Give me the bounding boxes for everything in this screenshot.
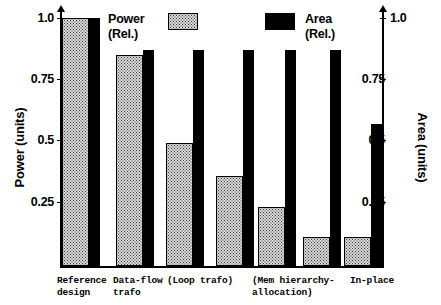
bar-power-4: [216, 176, 243, 266]
legend-label-power: Power (Rel.): [108, 12, 145, 42]
bar-power-3: [166, 143, 193, 266]
bar-area-1: [89, 18, 100, 266]
bar-area-6: [330, 50, 341, 266]
y-axis-left-arrow: [57, 5, 65, 12]
x-axis-category-label-4: (Mem hierarchy- allocation): [252, 275, 352, 299]
bar-power-2: [116, 55, 143, 266]
y-axis-left-tick-label-1: 1.0: [14, 11, 54, 25]
y-axis-right-tick-label-2: 0.75: [345, 72, 385, 86]
bar-power-7: [344, 237, 371, 266]
y-axis-left-tick-label-2: 0.75: [14, 72, 54, 86]
bar-area-4: [243, 50, 254, 266]
bar-area-5: [285, 50, 296, 266]
bar-chart: 1.0 0.75 0.5 0.25 1.0 0.75 0.5 0.25 Powe…: [0, 0, 441, 305]
y-axis-right-arrow: [379, 5, 387, 12]
x-axis-line: [60, 266, 384, 268]
legend-label-area: Area (Rel.): [305, 12, 335, 42]
y-axis-right-tick-label-1: 1.0: [390, 11, 430, 25]
bar-power-5: [258, 207, 285, 266]
x-axis-category-label-5: In-place: [350, 275, 420, 287]
y-axis-right-title: Area (units): [415, 88, 430, 208]
x-axis-category-label-3: (Loop trafo): [167, 275, 247, 287]
legend-swatch-area: [265, 13, 295, 30]
legend-swatch-power: [168, 13, 198, 30]
y-axis-right-tick-1: [380, 18, 386, 19]
bar-area-3: [193, 50, 204, 266]
bar-area-7: [371, 124, 382, 266]
bar-area-2: [143, 50, 154, 266]
bar-power-1: [62, 18, 89, 266]
bar-power-6: [303, 237, 330, 266]
y-axis-left-title: Power (units): [12, 88, 27, 208]
